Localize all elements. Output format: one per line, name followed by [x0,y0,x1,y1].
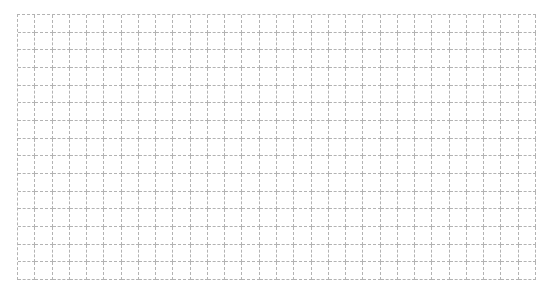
grid-cell [70,86,87,104]
grid-cell [122,33,139,51]
grid-cell [398,50,415,68]
grid-cell [467,262,484,280]
grid-cell [208,68,225,86]
grid-cell [363,15,380,33]
grid-cell [18,121,35,139]
grid-cell [294,50,311,68]
grid-cell [329,33,346,51]
grid-cell [122,50,139,68]
grid-cell [312,245,329,263]
grid-cell [139,156,156,174]
grid-cell [70,156,87,174]
grid-cell [18,103,35,121]
grid-cell [519,15,536,33]
grid-cell [415,245,432,263]
grid-cell [208,33,225,51]
grid-cell [450,15,467,33]
grid-cell [191,121,208,139]
grid-cell [173,68,190,86]
grid-cell [398,227,415,245]
grid-cell [381,227,398,245]
grid-cell [467,103,484,121]
grid-cell [363,86,380,104]
grid-cell [432,15,449,33]
grid-cell [87,245,104,263]
grid-cell [156,156,173,174]
grid-cell [35,103,52,121]
grid-cell [208,192,225,210]
grid-cell [415,33,432,51]
grid-cell [277,227,294,245]
grid-cell [53,121,70,139]
grid-cell [501,103,518,121]
grid-cell [415,139,432,157]
grid-cell [398,192,415,210]
grid-cell [329,139,346,157]
grid-cell [398,33,415,51]
grid-cell [381,262,398,280]
grid-cell [35,139,52,157]
grid-cell [501,33,518,51]
grid-cell [432,227,449,245]
grid-cell [260,68,277,86]
grid-cell [312,139,329,157]
grid-cell [87,192,104,210]
grid-cell [484,262,501,280]
grid-cell [260,245,277,263]
grid-cell [173,86,190,104]
grid-cell [432,262,449,280]
grid-cell [398,174,415,192]
grid-cell [104,68,121,86]
grid-cell [329,192,346,210]
grid-cell [139,86,156,104]
grid-cell [519,50,536,68]
grid-cell [104,209,121,227]
grid-cell [346,245,363,263]
grid-cell [312,192,329,210]
grid-cell [208,139,225,157]
grid-cell [104,33,121,51]
grid-cell [519,86,536,104]
grid-cell [432,86,449,104]
dashed-grid [17,14,536,280]
grid-cell [173,15,190,33]
grid-cell [450,174,467,192]
grid-cell [381,86,398,104]
grid-cell [501,245,518,263]
grid-cell [87,15,104,33]
grid-cell [156,121,173,139]
grid-cell [432,209,449,227]
grid-cell [104,121,121,139]
grid-cell [70,15,87,33]
grid-cell [260,121,277,139]
grid-cell [432,121,449,139]
grid-cell [122,192,139,210]
grid-cell [87,121,104,139]
grid-cell [70,139,87,157]
grid-cell [450,121,467,139]
grid-cell [277,68,294,86]
grid-cell [139,50,156,68]
grid-cell [122,15,139,33]
grid-cell [277,174,294,192]
grid-cell [329,227,346,245]
grid-cell [18,139,35,157]
grid-cell [519,209,536,227]
grid-cell [208,50,225,68]
grid-cell [104,174,121,192]
grid-cell [450,33,467,51]
grid-cell [225,139,242,157]
grid-cell [346,139,363,157]
grid-cell [398,139,415,157]
grid-cell [225,86,242,104]
grid-cell [70,33,87,51]
grid-cell [312,174,329,192]
grid-cell [346,50,363,68]
grid-cell [173,209,190,227]
grid-cell [415,209,432,227]
grid-cell [484,50,501,68]
grid-cell [225,227,242,245]
grid-cell [260,262,277,280]
grid-cell [191,227,208,245]
grid-cell [484,192,501,210]
